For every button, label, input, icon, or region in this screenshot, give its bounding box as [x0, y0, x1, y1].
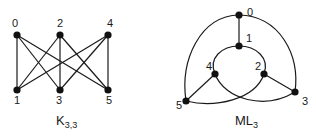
graph-diagrams: 024135 014253 K3,3 ML3: [0, 0, 316, 138]
k33-node-1: [13, 86, 20, 93]
ml3-edge-4-5: [186, 74, 215, 101]
ml3-node-label-0: 0: [247, 6, 253, 18]
k33-node-label-2: 2: [57, 17, 63, 29]
ml3-node-3: [291, 88, 298, 95]
ml3-node-5: [182, 97, 189, 104]
k33-node-2: [56, 31, 63, 38]
ml3-node-4: [211, 70, 218, 77]
k33-node-label-1: 1: [14, 94, 20, 106]
ml3-node-label-4: 4: [206, 60, 212, 72]
k33-node-0: [13, 31, 20, 38]
ml3-edge-2-3: [264, 74, 295, 92]
k33-node-5: [104, 86, 111, 93]
k33-node-4: [104, 31, 111, 38]
ml3-edge-4-1: [213, 46, 239, 74]
ml3-node-label-2: 2: [255, 60, 261, 72]
k33-node-label-3: 3: [56, 94, 62, 106]
ml3-node-0: [235, 11, 242, 18]
k33-node-3: [56, 86, 63, 93]
ml3-node-2: [260, 70, 267, 77]
ml3-edges: [185, 15, 296, 103]
k33-nodes: 024135: [12, 17, 113, 106]
ml3-node-1: [235, 42, 242, 49]
ml3-edge-5-0: [185, 15, 239, 101]
ml3-edge-1-2: [239, 46, 265, 74]
k33-node-label-5: 5: [106, 94, 112, 106]
k33-edges: [17, 35, 108, 90]
ml3-node-label-1: 1: [246, 32, 252, 44]
k33-caption: K3,3: [56, 113, 77, 130]
k33-node-label-0: 0: [12, 17, 18, 29]
k33-node-label-4: 4: [107, 17, 113, 29]
ml3-node-label-5: 5: [176, 99, 182, 111]
ml3-node-label-3: 3: [302, 95, 308, 107]
ml3-edge-0-3: [239, 15, 296, 92]
ml3-caption: ML3: [235, 113, 258, 130]
